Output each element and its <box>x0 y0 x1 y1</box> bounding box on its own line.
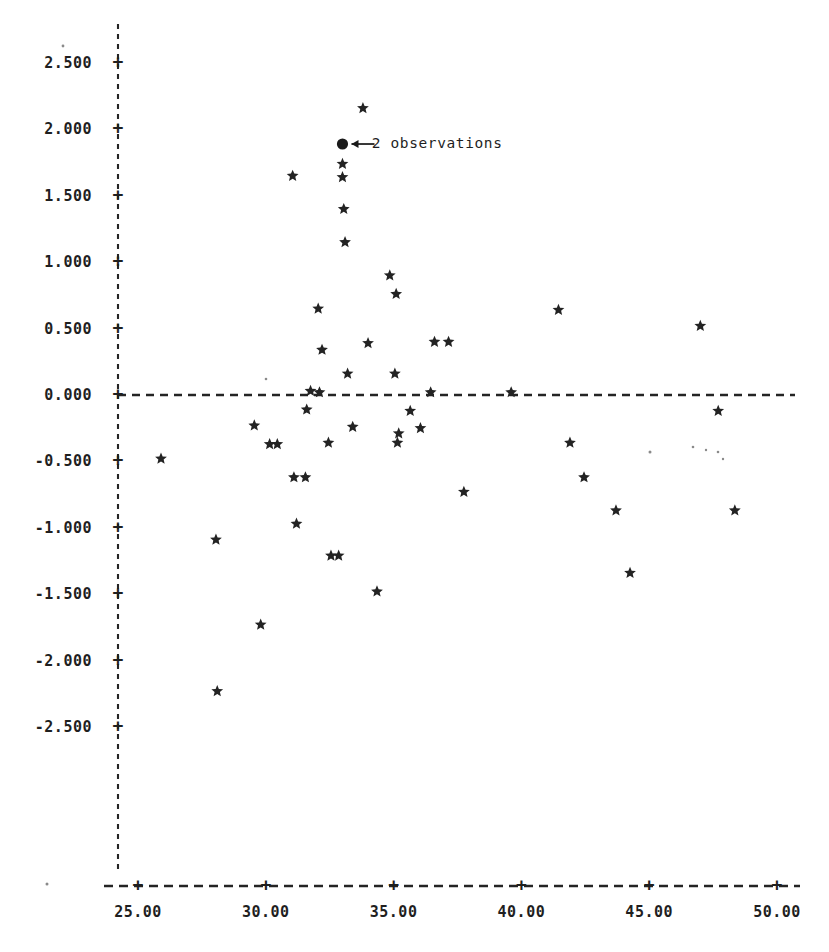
y-tick-label: 1.000 <box>44 253 92 271</box>
data-point-marker <box>333 549 345 560</box>
y-tick-mark: + <box>113 51 124 72</box>
x-tick-mark: + <box>260 874 271 895</box>
data-point-marker <box>429 336 441 347</box>
paper-specks <box>46 45 725 886</box>
data-point-marker <box>712 405 724 416</box>
y-tick-mark: + <box>113 715 124 736</box>
x-tick-mark: + <box>644 874 655 895</box>
speck <box>692 446 695 449</box>
y-tick-group: +2.500+2.000+1.500+1.000+0.500+0.000+-0.… <box>35 51 124 736</box>
data-point-marker <box>371 585 383 596</box>
y-tick-mark: + <box>113 117 124 138</box>
data-point-marker <box>404 405 416 416</box>
y-tick-label: -2.000 <box>35 652 92 670</box>
scatter-plot-figure: +2.500+2.000+1.500+1.000+0.500+0.000+-0.… <box>0 0 829 952</box>
annotation-label: 2 observations <box>372 135 503 151</box>
data-point-marker <box>210 534 222 545</box>
data-point-marker <box>610 504 622 515</box>
y-tick-mark: + <box>113 516 124 537</box>
data-point-marker <box>384 269 396 280</box>
data-point-marker <box>347 421 359 432</box>
data-point-marker <box>338 203 350 214</box>
data-point-marker <box>443 336 455 347</box>
data-point-marker <box>415 422 427 433</box>
x-tick-label: 35.00 <box>370 903 418 921</box>
plot-canvas: +2.500+2.000+1.500+1.000+0.500+0.000+-0.… <box>0 0 829 952</box>
data-point-marker <box>287 170 299 181</box>
y-tick-mark: + <box>113 317 124 338</box>
x-tick-mark: + <box>772 874 783 895</box>
speck <box>265 378 268 381</box>
data-point-marker <box>337 158 349 169</box>
data-point-marker <box>339 236 351 247</box>
x-tick-label: 50.00 <box>753 903 801 921</box>
y-tick-mark: + <box>113 649 124 670</box>
data-point-marker <box>323 437 335 448</box>
y-tick-mark: + <box>113 184 124 205</box>
speck <box>722 458 724 460</box>
data-point-marker <box>316 344 328 355</box>
data-points-group <box>155 102 741 696</box>
speck <box>705 449 707 451</box>
x-tick-group: +25.00+30.00+35.00+40.00+45.00+50.00 <box>114 874 801 921</box>
data-point-marker <box>342 368 354 379</box>
data-point-marker <box>155 453 167 464</box>
data-point-marker <box>392 437 404 448</box>
annotation-arrow-head-icon <box>351 140 358 148</box>
data-point-marker <box>300 471 312 482</box>
y-tick-mark: + <box>113 449 124 470</box>
data-point-marker <box>553 304 565 315</box>
x-tick-label: 30.00 <box>242 903 290 921</box>
data-point-marker <box>357 102 369 113</box>
speck <box>46 883 49 886</box>
y-tick-label: 2.500 <box>44 54 92 72</box>
y-tick-label: 0.000 <box>44 386 92 404</box>
x-tick-mark: + <box>388 874 399 895</box>
y-tick-label: 1.500 <box>44 187 92 205</box>
data-point-marker <box>301 403 313 414</box>
y-tick-label: 2.000 <box>44 120 92 138</box>
x-tick-mark: + <box>133 874 144 895</box>
y-tick-label: -1.500 <box>35 585 92 603</box>
data-point-marker <box>458 486 470 497</box>
data-point-marker <box>389 368 401 379</box>
data-point-marker <box>393 427 405 438</box>
x-tick-label: 40.00 <box>498 903 546 921</box>
data-point-marker <box>291 518 303 529</box>
x-tick-label: 45.00 <box>625 903 673 921</box>
data-point-marker <box>624 567 636 578</box>
data-point-marker <box>211 685 223 696</box>
speck <box>62 45 65 48</box>
y-tick-label: 0.500 <box>44 320 92 338</box>
data-point-marker <box>564 437 576 448</box>
data-point-marker <box>255 619 267 630</box>
two-observations-dot-marker <box>337 138 348 149</box>
data-point-marker <box>578 471 590 482</box>
x-tick-mark: + <box>516 874 527 895</box>
data-point-marker <box>312 302 324 313</box>
speck <box>649 451 652 454</box>
data-point-marker <box>248 419 260 430</box>
data-point-marker <box>694 320 706 331</box>
y-tick-label: -0.500 <box>35 452 92 470</box>
y-tick-mark: + <box>113 582 124 603</box>
data-point-marker <box>729 504 741 515</box>
data-point-marker <box>337 171 349 182</box>
y-tick-mark: + <box>113 250 124 271</box>
data-point-marker <box>288 471 300 482</box>
data-point-marker <box>271 438 283 449</box>
y-tick-label: -1.000 <box>35 519 92 537</box>
speck <box>717 451 720 454</box>
y-tick-label: -2.500 <box>35 718 92 736</box>
y-tick-mark: + <box>113 383 124 404</box>
x-tick-label: 25.00 <box>114 903 162 921</box>
data-point-marker <box>362 337 374 348</box>
data-point-marker <box>390 288 402 299</box>
annotation-group: 2 observations <box>337 135 503 151</box>
